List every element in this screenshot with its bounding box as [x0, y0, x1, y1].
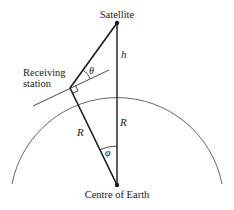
station-label-line2: station: [23, 78, 52, 89]
line-of-sight: [70, 23, 117, 88]
phi-label: φ: [105, 147, 111, 158]
satellite-point: [115, 21, 119, 25]
height-label: h: [121, 48, 127, 60]
satellite-geometry-diagram: Satellite Receiving station Centre of Ea…: [0, 0, 234, 210]
centre-point: [115, 183, 119, 187]
satellite-label: Satellite: [100, 9, 135, 20]
theta-label: θ: [89, 65, 94, 76]
centre-label: Centre of Earth: [85, 189, 150, 200]
radius-label-vertical: R: [119, 116, 127, 128]
radius-label-station: R: [76, 126, 84, 138]
station-label-line1: Receiving: [23, 67, 66, 78]
